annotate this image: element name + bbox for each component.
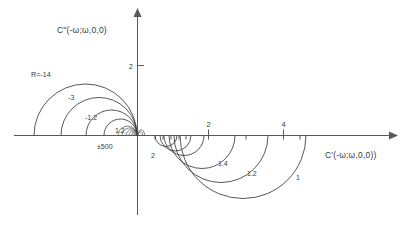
curve-label-minus-3: -3 (68, 93, 74, 102)
axes-group: 2 2 4 (14, 8, 398, 215)
lower-half-curves (155, 136, 306, 199)
y-axis-arrow-icon (134, 8, 142, 17)
y-axis-label: C"(-ω;ω,0,0) (57, 25, 107, 35)
curve-label-upper-1-2: 1.2 (115, 127, 125, 134)
x-axis-arrow-icon (389, 132, 398, 140)
curve-lower-1 (180, 136, 306, 199)
x-axis-label: C'(-ω;ω,0,0)) (325, 150, 377, 160)
curve-label-lower-1: 1 (296, 174, 300, 181)
curve-label-pm-500: ±500 (97, 143, 113, 150)
curve-label-lower-2: 2 (151, 152, 155, 159)
argand-diagram-figure: 2 2 4 (0, 0, 404, 229)
x-tick-label-2: 2 (206, 120, 210, 129)
curve-label-lower-1-2: 1.2 (247, 170, 257, 177)
y-tick-label-2: 2 (129, 62, 133, 71)
upper-half-curves (34, 84, 145, 136)
curve-label-lower-1-4: 1.4 (218, 160, 228, 167)
x-tick-label-4: 4 (281, 120, 285, 129)
curve-label-r-minus-14: R=-14 (31, 70, 51, 79)
curve-label-minus-1-2: -1.2 (85, 114, 97, 121)
plot-canvas: 2 2 4 (0, 0, 404, 229)
